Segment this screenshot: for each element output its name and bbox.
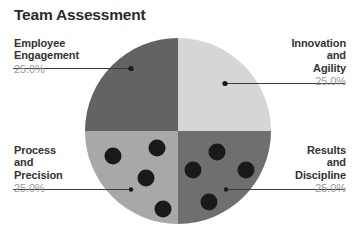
slice-label-line: Engagement	[14, 49, 79, 61]
slice-label-employee-engagement[interactable]: Employee Engagement 25.0%	[14, 37, 79, 76]
slice-label-line: Precision	[14, 169, 63, 181]
slice-label-line: Discipline	[295, 169, 346, 181]
pie-slices-group	[85, 38, 271, 224]
slice-value: 25.0%	[291, 74, 346, 88]
slice-label-line: Innovation	[291, 37, 346, 49]
slice-label-results-discipline[interactable]: Results and Discipline 25.0%	[295, 144, 346, 195]
slice-label-line: Process	[14, 144, 56, 156]
pie-chart-figure: Team Assessment	[0, 0, 356, 241]
pie-slice-employee-engagement[interactable]	[85, 38, 178, 131]
slice-label-line: and	[14, 156, 33, 168]
slice-label-process-precision[interactable]: Process and Precision 25.0%	[14, 144, 63, 195]
slice-label-line: Agility	[313, 62, 346, 74]
slice-value: 25.0%	[295, 181, 346, 195]
slice-label-line: Results	[307, 144, 346, 156]
slice-value: 25.0%	[14, 181, 63, 195]
slice-label-line: and	[327, 49, 346, 61]
slice-label-line: Employee	[14, 37, 65, 49]
slice-label-innovation-agility[interactable]: Innovation and Agility 25.0%	[291, 37, 346, 88]
slice-label-line: and	[327, 156, 346, 168]
slice-value: 25.0%	[14, 62, 79, 76]
